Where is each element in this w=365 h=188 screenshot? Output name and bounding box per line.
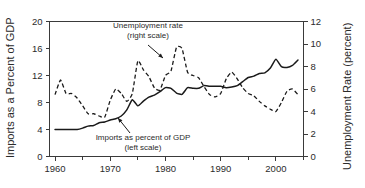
y-tick-label: 16 <box>32 43 43 54</box>
x-tick-label: 1960 <box>44 163 65 174</box>
y2-tick-label: 2 <box>311 128 316 139</box>
y-tick-label: 20 <box>32 16 43 27</box>
y2-tick-label: 12 <box>311 16 322 27</box>
imports-annotation-line1: Imports as percent of GDP <box>96 133 191 142</box>
y-tick-label: 0 <box>37 151 42 162</box>
y2-tick-label: 0 <box>311 151 316 162</box>
y-axis-title: Imports as a Percent of GDP <box>4 17 16 158</box>
unemployment-annotation-line2: (right scale) <box>127 31 169 40</box>
x-tick-label: 2000 <box>265 163 286 174</box>
y-tick-label: 12 <box>32 70 43 81</box>
y2-tick-label: 10 <box>311 38 322 49</box>
y2-axis-title: Unemployment Rate (percent) <box>341 23 353 170</box>
imports-annotation-line2: (left scale) <box>125 143 162 152</box>
unemployment-annotation-line1: Unemployment rate <box>113 21 183 30</box>
y2-tick-label: 6 <box>311 83 316 94</box>
y2-tick-label: 4 <box>311 106 316 117</box>
chart-svg: Imports as a Percent of GDP Unemployment… <box>0 0 365 188</box>
x-tick-label: 1970 <box>100 163 121 174</box>
y2-tick-label: 8 <box>311 61 316 72</box>
x-tick-label: 1980 <box>155 163 176 174</box>
chart-figure: Imports as a Percent of GDP Unemployment… <box>0 0 365 188</box>
x-tick-label: 1990 <box>210 163 231 174</box>
y-tick-label: 4 <box>37 124 42 135</box>
y-tick-label: 8 <box>37 97 42 108</box>
